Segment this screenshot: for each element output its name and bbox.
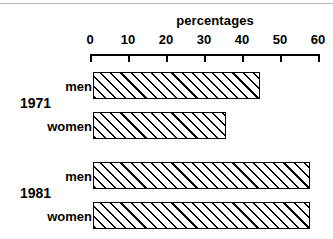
x-axis-tick-label-10: 10 (113, 32, 143, 47)
x-axis-tick-mark-40 (242, 54, 244, 62)
x-axis-tick-mark-10 (128, 54, 130, 62)
bar-1971-men (93, 72, 260, 99)
x-axis-line (90, 54, 320, 56)
bar-1971-women (93, 112, 226, 139)
x-axis-tick-label-0: 0 (75, 32, 105, 47)
bar-1981-women (93, 202, 310, 229)
group-label-1981: 1981 (20, 185, 51, 201)
x-axis-tick-label-40: 40 (227, 32, 257, 47)
bar-label-1971-men: men (65, 78, 92, 93)
chart-title: percentages (150, 13, 280, 28)
x-axis-tick-label-60: 60 (303, 32, 333, 47)
x-axis-tick-mark-60 (318, 54, 320, 62)
x-axis-tick-mark-50 (280, 54, 282, 62)
bar-1981-men (93, 162, 310, 189)
bar-label-1971-women: women (47, 118, 92, 133)
bar-row: women (93, 112, 226, 139)
x-axis-tick-label-30: 30 (189, 32, 219, 47)
x-axis-tick-mark-20 (166, 54, 168, 62)
x-axis-tick-label-20: 20 (151, 32, 181, 47)
x-axis-tick-mark-0 (90, 54, 92, 62)
x-axis-tick-label-50: 50 (265, 32, 295, 47)
bar-label-1981-women: women (47, 208, 92, 223)
x-axis-tick-mark-30 (204, 54, 206, 62)
bar-row: men (93, 72, 260, 99)
bar-chart: percentages 0102030405060 menwomenmenwom… (0, 0, 333, 239)
header-divider (0, 3, 333, 4)
bar-row: women (93, 202, 310, 229)
bar-row: men (93, 162, 310, 189)
group-label-1971: 1971 (20, 95, 51, 111)
bar-label-1981-men: men (65, 168, 92, 183)
